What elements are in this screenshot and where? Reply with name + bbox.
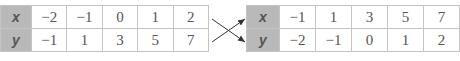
row-label-x: x bbox=[247, 6, 280, 29]
table-row-y: y −2 −1 0 1 2 bbox=[247, 29, 460, 52]
cell: −1 bbox=[280, 6, 316, 29]
cell: 0 bbox=[352, 29, 388, 52]
cell: 1 bbox=[388, 29, 424, 52]
inverse-table: x −1 1 3 5 7 y −2 −1 0 1 2 bbox=[246, 5, 460, 52]
cell: 3 bbox=[352, 6, 388, 29]
cell: 5 bbox=[388, 6, 424, 29]
cell: −1 bbox=[316, 29, 352, 52]
cell: −2 bbox=[280, 29, 316, 52]
row-label-y: y bbox=[247, 29, 280, 52]
cell: 1 bbox=[316, 6, 352, 29]
cell: 7 bbox=[424, 6, 460, 29]
cell: 2 bbox=[424, 29, 460, 52]
table-row-x: x −1 1 3 5 7 bbox=[247, 6, 460, 29]
